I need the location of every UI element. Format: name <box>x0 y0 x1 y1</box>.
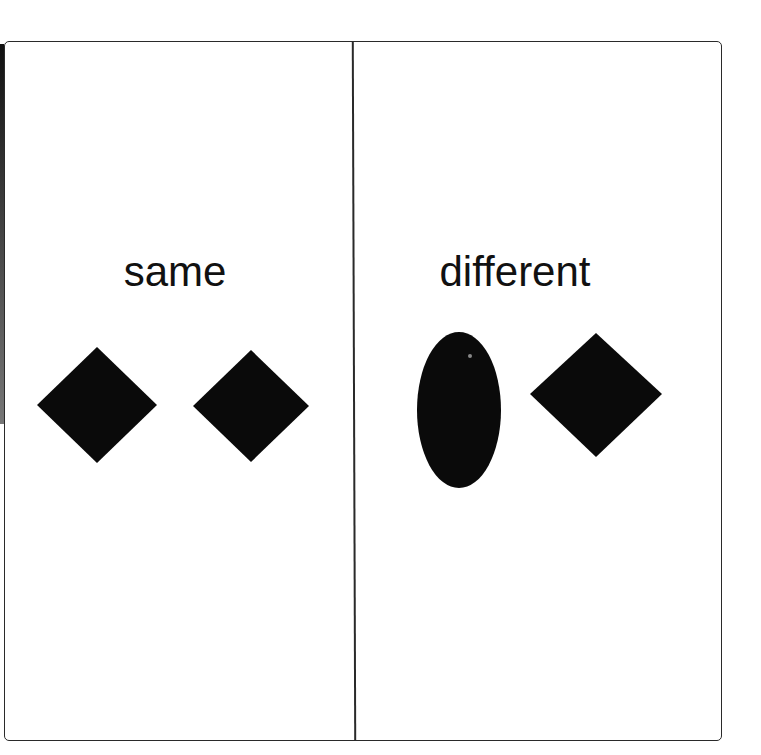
same-diamond-right <box>193 350 309 462</box>
shapes-canvas <box>0 0 761 755</box>
ellipse-highlight-dot <box>468 354 472 358</box>
different-diamond <box>530 333 662 457</box>
different-ellipse <box>417 332 501 488</box>
same-diamond-left <box>37 347 157 463</box>
